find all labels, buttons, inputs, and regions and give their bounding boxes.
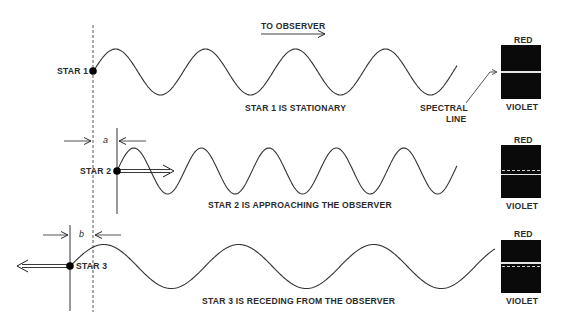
- spectrum2-box: [501, 145, 541, 198]
- spectrum3-box: [501, 240, 541, 293]
- star2-wave: [117, 148, 457, 194]
- star2-dot: [113, 167, 121, 175]
- spectral-line-pointer: [466, 72, 496, 103]
- spectrum1-red-label: RED: [514, 36, 533, 45]
- spectrum2-violet-label: VIOLET: [506, 202, 538, 211]
- star3-dot: [66, 262, 74, 270]
- to-observer-label: TO OBSERVER: [261, 22, 325, 31]
- star1-wave: [93, 49, 457, 95]
- spectral-label-line1: SPECTRAL: [420, 104, 468, 113]
- spectrum1-line: [501, 71, 541, 73]
- spectrum1-box: [501, 45, 541, 99]
- doppler-diagram: [0, 0, 574, 329]
- spectrum2-reference-dash: [502, 170, 540, 171]
- offset-b-label: b: [79, 230, 84, 239]
- spectrum1-violet-label: VIOLET: [506, 103, 538, 112]
- spectrum3-line: [501, 262, 541, 264]
- spectrum3-violet-label: VIOLET: [506, 297, 538, 306]
- star3-caption: STAR 3 IS RECEDING FROM THE OBSERVER: [202, 297, 395, 306]
- star1-label: STAR 1: [57, 67, 88, 76]
- spectrum3-reference-dash: [502, 266, 540, 267]
- spectrum3-red-label: RED: [514, 230, 533, 239]
- star3-wave: [70, 245, 495, 289]
- star1-dot: [89, 67, 97, 75]
- offset-a-label: a: [103, 136, 108, 145]
- spectral-label-line2: LINE: [446, 115, 466, 124]
- spectrum2-line: [501, 174, 541, 176]
- star2-motion-arrow-head: [163, 165, 174, 177]
- star1-caption: STAR 1 IS STATIONARY: [245, 104, 346, 113]
- star2-caption: STAR 2 IS APPROACHING THE OBSERVER: [208, 201, 392, 210]
- star3-motion-arrow-head: [17, 260, 28, 272]
- star3-label: STAR 3: [76, 262, 107, 271]
- spectrum2-red-label: RED: [514, 136, 533, 145]
- star2-label: STAR 2: [80, 167, 111, 176]
